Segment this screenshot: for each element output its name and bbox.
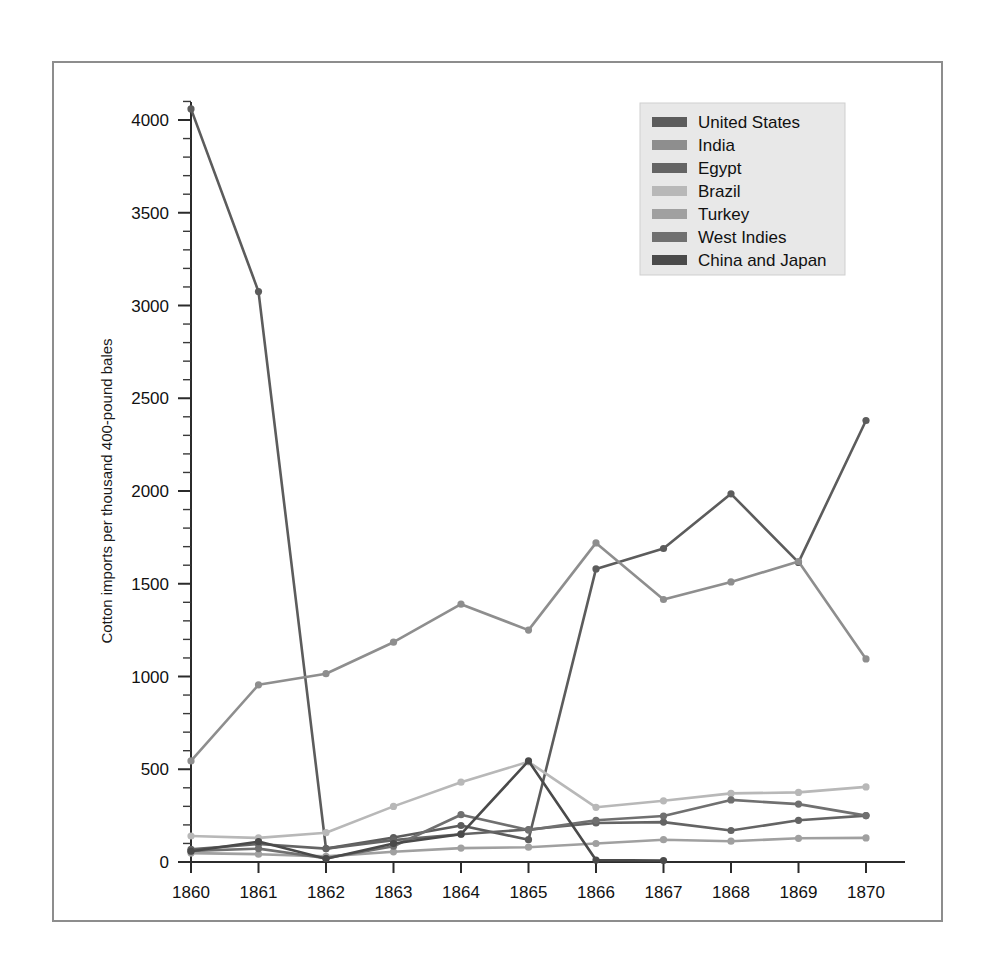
data-point bbox=[660, 596, 667, 603]
data-point bbox=[727, 838, 734, 845]
y-tick-label: 0 bbox=[160, 853, 169, 872]
line-chart: 0500100015002000250030003500400018601861… bbox=[0, 0, 995, 968]
data-point bbox=[795, 801, 802, 808]
x-tick-label: 1869 bbox=[780, 883, 818, 902]
data-point bbox=[187, 832, 194, 839]
data-point bbox=[322, 855, 329, 862]
data-point bbox=[660, 812, 667, 819]
legend-label: West Indies bbox=[698, 228, 787, 247]
y-tick-label: 3000 bbox=[131, 297, 169, 316]
data-point bbox=[525, 627, 532, 634]
data-point bbox=[525, 827, 532, 834]
data-point bbox=[255, 288, 262, 295]
data-point bbox=[592, 565, 599, 572]
data-point bbox=[187, 757, 194, 764]
x-tick-label: 1866 bbox=[577, 883, 615, 902]
legend-swatch bbox=[652, 186, 687, 196]
x-tick-label: 1868 bbox=[712, 883, 750, 902]
x-tick-label: 1870 bbox=[847, 883, 885, 902]
data-point bbox=[255, 845, 262, 852]
data-point bbox=[660, 797, 667, 804]
legend-swatch bbox=[652, 163, 687, 173]
legend-label: Brazil bbox=[698, 182, 741, 201]
data-point bbox=[457, 601, 464, 608]
data-point bbox=[592, 539, 599, 546]
data-point bbox=[727, 827, 734, 834]
legend-swatch bbox=[652, 117, 687, 127]
data-point bbox=[322, 829, 329, 836]
data-point bbox=[390, 803, 397, 810]
data-point bbox=[525, 757, 532, 764]
data-point bbox=[390, 639, 397, 646]
chart-figure: 0500100015002000250030003500400018601861… bbox=[0, 0, 995, 968]
data-point bbox=[660, 857, 667, 864]
data-point bbox=[660, 545, 667, 552]
data-point bbox=[592, 857, 599, 864]
legend-swatch bbox=[652, 140, 687, 150]
data-point bbox=[727, 490, 734, 497]
series-west-indies bbox=[187, 796, 869, 862]
y-tick-label: 500 bbox=[141, 760, 169, 779]
legend-swatch bbox=[652, 232, 687, 242]
data-point bbox=[390, 840, 397, 847]
series-india bbox=[187, 539, 869, 764]
data-point bbox=[727, 790, 734, 797]
data-point bbox=[862, 655, 869, 662]
data-point bbox=[592, 840, 599, 847]
y-tick-label: 1500 bbox=[131, 575, 169, 594]
data-point bbox=[457, 811, 464, 818]
data-point bbox=[322, 670, 329, 677]
data-point bbox=[525, 836, 532, 843]
chart-legend[interactable]: United StatesIndiaEgyptBrazilTurkeyWest … bbox=[640, 103, 845, 275]
data-point bbox=[592, 804, 599, 811]
data-point bbox=[187, 105, 194, 112]
data-point bbox=[727, 578, 734, 585]
x-tick-label: 1865 bbox=[510, 883, 548, 902]
data-point bbox=[592, 817, 599, 824]
data-point bbox=[862, 812, 869, 819]
data-point bbox=[457, 845, 464, 852]
legend-label: Egypt bbox=[698, 159, 742, 178]
legend-label: United States bbox=[698, 113, 800, 132]
x-tick-label: 1864 bbox=[442, 883, 480, 902]
y-tick-label: 1000 bbox=[131, 668, 169, 687]
data-point bbox=[795, 558, 802, 565]
series-path bbox=[191, 761, 664, 861]
data-point bbox=[795, 789, 802, 796]
legend-label: China and Japan bbox=[698, 251, 827, 270]
data-point bbox=[660, 836, 667, 843]
legend-swatch bbox=[652, 255, 687, 265]
x-tick-label: 1860 bbox=[172, 883, 210, 902]
legend-swatch bbox=[652, 209, 687, 219]
data-point bbox=[727, 796, 734, 803]
data-point bbox=[525, 844, 532, 851]
data-point bbox=[187, 848, 194, 855]
y-tick-label: 4000 bbox=[131, 111, 169, 130]
data-point bbox=[457, 831, 464, 838]
y-tick-label: 2500 bbox=[131, 389, 169, 408]
y-tick-label: 3500 bbox=[131, 204, 169, 223]
x-tick-label: 1863 bbox=[375, 883, 413, 902]
x-tick-label: 1862 bbox=[307, 883, 345, 902]
legend-label: India bbox=[698, 136, 735, 155]
data-point bbox=[862, 783, 869, 790]
data-point bbox=[862, 834, 869, 841]
data-point bbox=[795, 835, 802, 842]
data-point bbox=[255, 838, 262, 845]
x-tick-label: 1861 bbox=[240, 883, 278, 902]
data-point bbox=[795, 817, 802, 824]
data-point bbox=[255, 681, 262, 688]
data-point bbox=[862, 417, 869, 424]
data-point bbox=[457, 779, 464, 786]
y-tick-label: 2000 bbox=[131, 482, 169, 501]
y-axis-title: Cotton imports per thousand 400-pound ba… bbox=[98, 338, 115, 643]
data-point bbox=[322, 845, 329, 852]
x-tick-label: 1867 bbox=[645, 883, 683, 902]
legend-label: Turkey bbox=[698, 205, 750, 224]
data-point bbox=[457, 822, 464, 829]
